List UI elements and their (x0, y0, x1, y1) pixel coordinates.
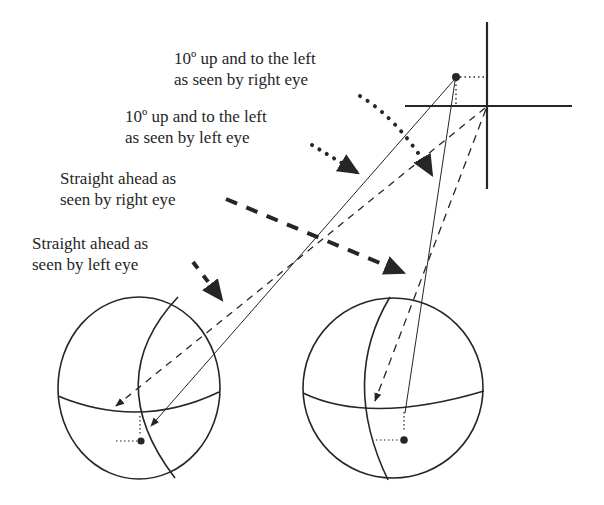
label-line: as seen by right eye (174, 69, 316, 90)
label-up-left-right-eye: 10º up and to the left as seen by right … (174, 48, 316, 90)
right-eye-equator (303, 391, 484, 409)
pointer-arrow-up-left-right-eye (360, 96, 432, 175)
fixation-cross (405, 22, 572, 189)
right-eye-image-dot (400, 436, 408, 444)
pointer-arrow-straight-ahead-left-eye (193, 262, 222, 300)
target-point (452, 73, 487, 106)
left-eye-image-dot (137, 437, 144, 444)
label-straight-ahead-right-eye: Straight ahead as seen by right eye (60, 168, 176, 210)
right-eye-meridian (364, 297, 390, 480)
right-eye (303, 297, 484, 480)
label-line: seen by left eye (32, 254, 148, 275)
right-eye-target-ray (405, 81, 455, 413)
label-line: 10º up and to the left (174, 48, 316, 69)
label-up-left-left-eye: 10º up and to the left as seen by left e… (125, 106, 267, 148)
label-line: as seen by left eye (125, 127, 267, 148)
binocular-diagram: 10º up and to the left as seen by right … (0, 0, 604, 505)
right-eye-outline (303, 298, 483, 478)
label-line: Straight ahead as (32, 233, 148, 254)
label-line: Straight ahead as (60, 168, 176, 189)
label-line: seen by right eye (60, 189, 176, 210)
target-dot (452, 73, 460, 81)
label-line: 10º up and to the left (125, 106, 267, 127)
pointer-arrow-straight-ahead-right-eye (226, 199, 404, 273)
left-eye-meridian (138, 297, 178, 478)
pointer-arrow-up-left-left-eye (312, 145, 358, 173)
label-straight-ahead-left-eye: Straight ahead as seen by left eye (32, 233, 148, 275)
